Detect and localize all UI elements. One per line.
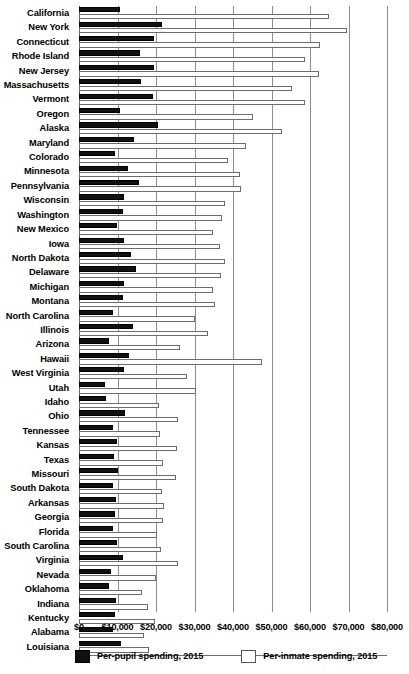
bar-row	[79, 193, 387, 207]
bar-row	[79, 92, 387, 106]
bar-per-inmate	[79, 403, 159, 408]
category-label: New York	[0, 20, 74, 34]
value-axis-ticks: $0$10,000$20,000$30,000$40,000$50,000$60…	[0, 622, 409, 638]
bar-row	[79, 208, 387, 222]
category-label: Pennsylvania	[0, 179, 74, 193]
bar-per-inmate	[79, 604, 148, 609]
bar-per-inmate	[79, 575, 156, 580]
bar-per-inmate	[79, 28, 347, 33]
category-label: Michigan	[0, 280, 74, 294]
bar-per-inmate	[79, 417, 178, 422]
category-label: Indiana	[0, 597, 74, 611]
bar-row	[79, 409, 387, 423]
axis-tick-label: $80,000	[371, 622, 403, 632]
category-label: Arkansas	[0, 496, 74, 510]
bar-per-pupil	[79, 7, 120, 12]
bar-row	[79, 107, 387, 121]
bar-row	[79, 568, 387, 582]
bar-per-inmate	[79, 129, 282, 134]
category-label: Idaho	[0, 395, 74, 409]
category-label: Nevada	[0, 568, 74, 582]
bar-per-inmate	[79, 345, 180, 350]
bar-per-inmate	[79, 475, 176, 480]
bar-per-pupil	[79, 468, 118, 473]
bar-per-pupil	[79, 295, 123, 300]
bar-per-pupil	[79, 137, 134, 142]
axis-tick-label: $0	[74, 622, 84, 632]
category-label: Utah	[0, 381, 74, 395]
category-label: Montana	[0, 294, 74, 308]
bar-per-pupil	[79, 497, 116, 502]
bar-row	[79, 381, 387, 395]
bar-per-inmate	[79, 503, 164, 508]
bar-per-pupil	[79, 108, 120, 113]
category-label: Virginia	[0, 553, 74, 567]
bar-row	[79, 49, 387, 63]
bar-row	[79, 597, 387, 611]
bar-row	[79, 539, 387, 553]
bar-per-inmate	[79, 316, 195, 321]
bar-per-inmate	[79, 287, 213, 292]
category-label: Connecticut	[0, 35, 74, 49]
bar-per-pupil	[79, 555, 123, 560]
category-label: Missouri	[0, 467, 74, 481]
category-label: South Carolina	[0, 539, 74, 553]
bar-per-inmate	[79, 14, 329, 19]
category-label: Hawaii	[0, 352, 74, 366]
bar-per-pupil	[79, 583, 109, 588]
bar-per-pupil	[79, 65, 154, 70]
category-label: Texas	[0, 453, 74, 467]
bar-per-pupil	[79, 483, 113, 488]
legend-item-per-inmate: Per-inmate spending, 2015	[241, 650, 377, 663]
category-label: Delaware	[0, 265, 74, 279]
bar-row	[79, 496, 387, 510]
bar-row	[79, 366, 387, 380]
bar-per-inmate	[79, 331, 208, 336]
category-label: Colorado	[0, 150, 74, 164]
category-label: Georgia	[0, 510, 74, 524]
bar-row	[79, 179, 387, 193]
category-label: North Dakota	[0, 251, 74, 265]
bars-container	[79, 6, 387, 612]
axis-tick-label: $70,000	[333, 622, 365, 632]
bar-per-pupil	[79, 252, 131, 257]
bar-per-inmate	[79, 518, 163, 523]
chart-legend: Per-pupil spending, 2015 Per-inmate spen…	[0, 646, 409, 666]
bar-per-inmate	[79, 215, 222, 220]
bar-row	[79, 150, 387, 164]
bar-row	[79, 553, 387, 567]
bar-per-inmate	[79, 547, 161, 552]
bar-per-pupil	[79, 79, 141, 84]
category-label: Kansas	[0, 438, 74, 452]
legend-item-per-pupil: Per-pupil spending, 2015	[75, 650, 203, 663]
bar-per-pupil	[79, 382, 105, 387]
bar-per-inmate	[79, 431, 160, 436]
bar-per-pupil	[79, 180, 139, 185]
bar-per-inmate	[79, 259, 225, 264]
bar-row	[79, 294, 387, 308]
bar-per-inmate	[79, 71, 319, 76]
bar-row	[79, 395, 387, 409]
bar-per-inmate	[79, 359, 262, 364]
bar-per-inmate	[79, 114, 253, 119]
bar-per-inmate	[79, 100, 305, 105]
category-label: New Mexico	[0, 222, 74, 236]
category-label: Arizona	[0, 337, 74, 351]
plot-area: CaliforniaNew YorkConnecticutRhode Islan…	[0, 0, 409, 622]
bar-per-pupil	[79, 238, 124, 243]
axis-tick-label: $40,000	[217, 622, 249, 632]
bar-chart-figure: CaliforniaNew YorkConnecticutRhode Islan…	[0, 0, 409, 674]
bar-per-pupil	[79, 194, 124, 199]
category-label: Washington	[0, 208, 74, 222]
bar-row	[79, 35, 387, 49]
bar-per-pupil	[79, 151, 115, 156]
bar-per-inmate	[79, 158, 228, 163]
bar-row	[79, 481, 387, 495]
bar-row	[79, 280, 387, 294]
bar-row	[79, 78, 387, 92]
category-label: Florida	[0, 525, 74, 539]
bar-per-inmate	[79, 374, 187, 379]
category-label: California	[0, 6, 74, 20]
bar-per-pupil	[79, 50, 140, 55]
category-label: New Jersey	[0, 64, 74, 78]
